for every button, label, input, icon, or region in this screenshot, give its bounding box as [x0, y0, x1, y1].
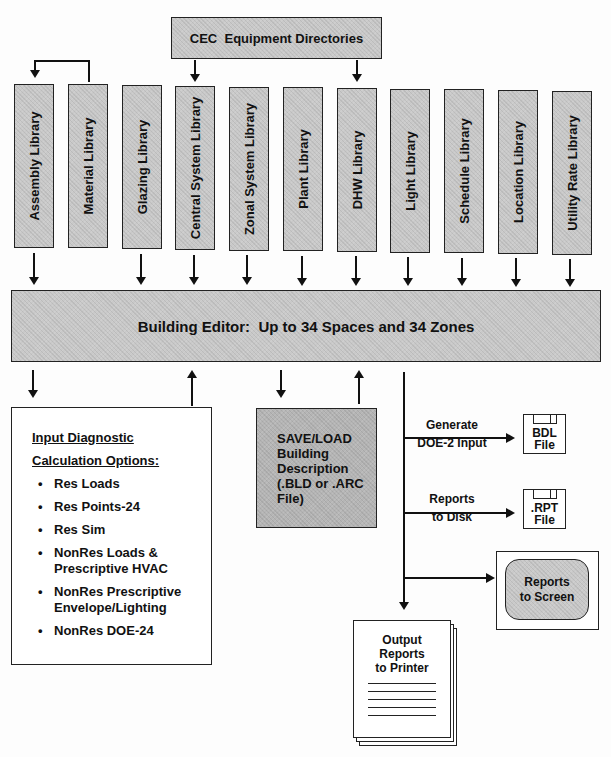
option-label: NonRes Loads & Prescriptive HVAC — [54, 545, 168, 576]
building-editor-label: Building Editor: Up to 34 Spaces and 34 … — [138, 318, 475, 335]
library-label: Central System Library — [188, 97, 203, 239]
library-glazing: Glazing Library — [122, 85, 162, 249]
option-nonres-loads-hvac[interactable]: •NonRes Loads & Prescriptive HVAC — [32, 545, 194, 577]
bullet-icon: • — [38, 584, 43, 600]
connector-location-to-editor — [515, 258, 517, 281]
page-text-lines — [368, 683, 436, 716]
arrow-down-icon — [242, 277, 252, 285]
reports-to-disk-label: Reports to Disk — [412, 490, 492, 526]
arrow-down-icon — [30, 70, 40, 78]
connector-editor-to-options — [32, 370, 34, 392]
connector-to-bdl — [404, 437, 508, 439]
save-load-label: SAVE/LOAD Building Description (.BLD or … — [277, 431, 364, 506]
connector-material-to-assembly — [34, 60, 90, 62]
option-label: Res Loads — [54, 476, 120, 491]
input-diagnostic-heading[interactable]: Input Diagnostic — [32, 430, 211, 445]
arrow-down-icon — [511, 279, 521, 287]
library-dhw: DHW Library — [337, 88, 377, 252]
arrow-down-icon — [190, 74, 200, 82]
arrow-down-icon — [352, 74, 362, 82]
bullet-icon: • — [38, 545, 43, 561]
library-label: Utility Rate Library — [565, 115, 580, 231]
option-res-sim[interactable]: •Res Sim — [32, 522, 211, 538]
floppy-shutter-notch — [550, 489, 555, 499]
reports-to-screen-display: Reports to Screen — [505, 559, 589, 620]
bdl-file-line2: File — [524, 439, 565, 451]
bullet-icon: • — [38, 623, 43, 639]
printer-line2: Reports — [354, 647, 450, 661]
connector-central-to-editor — [193, 255, 195, 279]
arrow-down-icon — [29, 277, 39, 285]
library-label: Plant Library — [296, 129, 311, 208]
library-label: Material Library — [81, 118, 96, 215]
connector-utility-to-editor — [569, 259, 571, 281]
option-res-loads[interactable]: •Res Loads — [32, 476, 211, 492]
connector-to-screen — [404, 577, 488, 579]
screen-line2: to Screen — [506, 590, 588, 605]
output-reports-printer-box: Output Reports to Printer — [353, 620, 451, 738]
option-res-points-24[interactable]: •Res Points-24 — [32, 499, 211, 515]
arrow-down-icon — [457, 278, 467, 286]
option-nonres-doe-24[interactable]: •NonRes DOE-24 — [32, 623, 211, 639]
bullet-icon: • — [38, 522, 43, 538]
connector-light-to-editor — [407, 257, 409, 280]
arrow-down-icon — [399, 602, 409, 610]
save-load-box: SAVE/LOAD Building Description (.BLD or … — [256, 408, 377, 528]
building-editor-box: Building Editor: Up to 34 Spaces and 34 … — [11, 290, 601, 362]
library-location: Location Library — [498, 90, 538, 254]
rpt-file-line2: File — [524, 514, 565, 526]
library-label: Assembly Library — [27, 111, 42, 220]
arrow-down-icon — [565, 279, 575, 287]
monitor-icon: Reports to Screen — [496, 551, 599, 630]
arrow-down-icon — [351, 278, 361, 286]
option-nonres-envelope-lighting[interactable]: •NonRes Prescriptive Envelope/Lighting — [32, 584, 194, 616]
screen-line1: Reports — [506, 575, 588, 590]
option-label: Res Points-24 — [54, 499, 140, 514]
arrow-down-icon — [297, 278, 307, 286]
arrow-up-icon — [187, 370, 197, 378]
connector-material-up — [88, 60, 90, 82]
connector-zonal-to-editor — [246, 255, 248, 279]
library-zonal-system: Zonal System Library — [229, 87, 269, 251]
printer-line3: to Printer — [354, 661, 450, 675]
connector-schedule-to-editor — [461, 258, 463, 280]
option-label: NonRes DOE-24 — [54, 623, 154, 638]
arrow-down-icon — [403, 278, 413, 286]
library-material: Material Library — [68, 84, 108, 248]
option-label: Res Sim — [54, 522, 105, 537]
bullet-icon: • — [38, 476, 43, 492]
arrow-right-icon — [506, 508, 515, 518]
connector-dhw-to-editor — [355, 256, 357, 280]
bullet-icon: • — [38, 499, 43, 515]
arrow-down-icon — [189, 277, 199, 285]
arrow-up-icon — [354, 370, 364, 378]
library-light: Light Library — [390, 89, 430, 253]
connector-plant-to-editor — [301, 256, 303, 280]
library-assembly: Assembly Library — [14, 84, 54, 248]
connector-options-to-editor — [191, 378, 193, 406]
library-label: Zonal System Library — [242, 103, 257, 235]
library-label: DHW Library — [350, 131, 365, 210]
output-trunk-line — [403, 372, 405, 604]
calculation-options-heading[interactable]: Calculation Options: — [32, 453, 211, 468]
library-label: Light Library — [403, 131, 418, 210]
library-schedule: Schedule Library — [444, 89, 484, 253]
connector-glazing-to-editor — [140, 254, 142, 279]
option-label: NonRes Prescriptive Envelope/Lighting — [54, 584, 181, 615]
calculation-options-list: •Res Loads •Res Points-24 •Res Sim •NonR… — [32, 476, 211, 639]
connector-editor-to-saveload — [280, 370, 282, 392]
arrow-down-icon — [136, 277, 146, 285]
library-plant: Plant Library — [283, 87, 323, 251]
cec-equipment-directories-label: CEC Equipment Directories — [190, 31, 363, 46]
arrow-down-icon — [276, 390, 286, 398]
calculation-options-box: Input Diagnostic Calculation Options: •R… — [11, 407, 212, 665]
library-utility-rate: Utility Rate Library — [552, 91, 592, 255]
library-label: Location Library — [511, 121, 526, 223]
reports-disk-line2: to Disk — [412, 508, 492, 526]
connector-to-rpt — [404, 512, 508, 514]
arrow-right-icon — [506, 433, 515, 443]
generate-label: Generate DOE-2 Input — [412, 416, 492, 452]
library-label: Glazing Library — [135, 120, 150, 215]
generate-label-line1: Generate — [412, 416, 492, 434]
floppy-shutter-notch — [550, 414, 555, 424]
